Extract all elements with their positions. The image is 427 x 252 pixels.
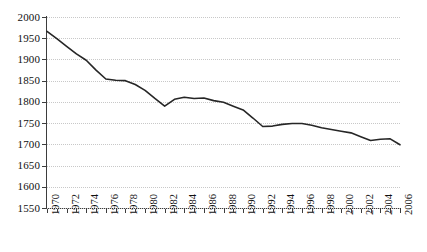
line-chart: 1550160016501700175018001850190019502000… bbox=[0, 0, 427, 252]
data-series-line bbox=[47, 31, 400, 144]
series-layer bbox=[0, 0, 427, 252]
